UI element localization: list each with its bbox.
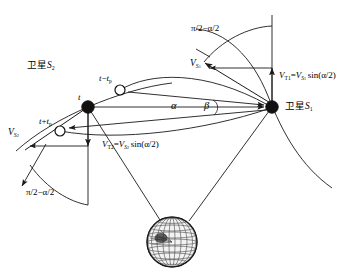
label-velocity-s1: VS1 — [190, 59, 201, 70]
arc-angle-top-text: π/2−α/2 — [191, 23, 219, 33]
time-t-text: t — [78, 92, 81, 102]
node-t-plus-tp — [55, 126, 65, 136]
angle-marks — [213, 100, 218, 115]
satellite-s1-index: 1 — [310, 106, 313, 112]
node-s2 — [82, 101, 94, 113]
node-s1 — [266, 101, 278, 113]
time-plus-p: p — [49, 121, 52, 127]
satellite-geometry-figure: 卫星S2 卫星S1 t t−tp t+tp α β π/2−α/2 π/2−α/… — [0, 0, 358, 279]
sight-arc-upper — [120, 77, 268, 105]
vt2-function: sin(α/2) — [129, 139, 159, 149]
label-time-minus-tp: t−tp — [99, 74, 112, 84]
label-satellite-s1: 卫星S1 — [285, 101, 313, 113]
velocity-s1-index: 1 — [199, 64, 201, 69]
label-time-plus-tp: t+tp — [39, 117, 52, 127]
label-time-t: t — [78, 93, 81, 102]
satellite-s1-cjk: 卫星 — [285, 100, 305, 111]
earth-globe — [147, 217, 197, 267]
angle-alpha-text: α — [171, 100, 177, 111]
velocity-s2-index: 2 — [17, 133, 19, 138]
label-angle-alpha: α — [171, 101, 177, 112]
satellite-s2-cjk: 卫星 — [27, 59, 47, 70]
arc-angle-bottom-text: π/2−α/2 — [26, 187, 54, 197]
time-minus-p: p — [109, 78, 112, 84]
label-velocity-s2: VS2 — [8, 128, 19, 139]
label-vt1-equation: VT1=VS1sin(α/2) — [279, 71, 336, 81]
label-arc-angle-bottom: π/2−α/2 — [26, 188, 54, 197]
label-vt2-equation: VT2=VS2sin(α/2) — [102, 140, 159, 150]
vt1-function: sin(α/2) — [306, 70, 336, 80]
label-satellite-s2: 卫星S2 — [27, 60, 55, 72]
satellite-s2-index: 2 — [52, 65, 55, 71]
node-t-minus-tp — [115, 85, 125, 95]
sight-lines-from-s1 — [69, 92, 266, 128]
diagram-canvas — [0, 0, 358, 279]
label-arc-angle-top: π/2−α/2 — [191, 24, 219, 33]
label-angle-beta: β — [204, 101, 209, 112]
angle-beta-text: β — [204, 100, 209, 111]
